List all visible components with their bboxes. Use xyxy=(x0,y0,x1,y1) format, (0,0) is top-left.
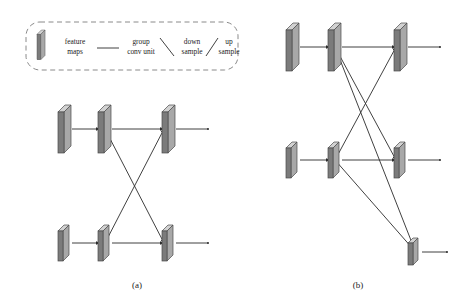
panel-a: (a) xyxy=(58,105,208,290)
down-sample-line-icon xyxy=(160,38,174,56)
legend-group: feature maps group conv unit down sample… xyxy=(26,22,240,70)
feature-map-a-r1c2 xyxy=(98,105,111,153)
feature-map-a-r1c1 xyxy=(58,105,71,153)
panel-caption-b: (b) xyxy=(353,280,364,290)
legend-label-down-line1: down xyxy=(184,37,201,46)
feature-map-b-r1c1 xyxy=(286,23,299,71)
feature-map-a-r2c1 xyxy=(58,225,69,261)
legend-border xyxy=(26,22,238,70)
legend-label-down-line2: sample xyxy=(182,47,204,56)
up-sample-line-icon xyxy=(206,38,218,56)
feature-map-b-r1c2 xyxy=(328,23,341,71)
legend-label-up-line2: sample xyxy=(219,47,241,56)
feature-map-a-r1c3 xyxy=(162,105,175,153)
feature-map-box-icon xyxy=(37,30,45,60)
feature-map-b-r1c3 xyxy=(394,23,407,71)
panel-b: (b) xyxy=(286,23,447,290)
legend-label-feature-line1: feature xyxy=(65,37,86,46)
feature-map-b-r2c3 xyxy=(394,142,405,178)
legend-label-conv-line2: conv unit xyxy=(127,47,156,56)
diagram-canvas: feature maps group conv unit down sample… xyxy=(0,0,458,307)
feature-map-a-r2c3 xyxy=(162,225,173,261)
figure-container: feature maps group conv unit down sample… xyxy=(0,0,458,307)
legend-label-conv-line1: group xyxy=(132,37,150,46)
feature-map-b-r2c1 xyxy=(286,142,297,178)
feature-map-b-r2c2 xyxy=(328,142,339,178)
feature-map-b-r3c3 xyxy=(408,238,418,265)
panel-caption-a: (a) xyxy=(132,280,142,290)
legend-label-up-line1: up xyxy=(225,37,233,46)
legend-label-feature-line2: maps xyxy=(67,47,83,56)
feature-map-a-r2c2 xyxy=(98,225,109,261)
